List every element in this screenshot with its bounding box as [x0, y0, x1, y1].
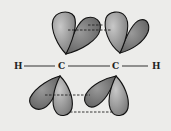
lower-orbital-group — [30, 76, 129, 115]
upper-orbital-group — [52, 12, 148, 54]
atom-h-right: H — [152, 61, 161, 71]
atom-h-left: H — [14, 61, 23, 71]
molecule-skeleton: H C C H — [14, 61, 161, 71]
acetylene-pi-orbital-diagram: H C C H — [0, 0, 171, 131]
atom-c-right: C — [112, 61, 119, 71]
atom-c-left: C — [58, 61, 65, 71]
